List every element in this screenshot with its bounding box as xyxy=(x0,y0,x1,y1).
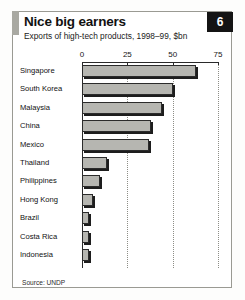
bar-category-label: Malaysia xyxy=(20,103,80,112)
bar xyxy=(82,65,196,77)
bar-row: Hong Kong xyxy=(12,192,232,210)
bar-category-label: South Korea xyxy=(20,84,80,93)
bars-container: SingaporeSouth KoreaMalaysiaChinaMexicoT… xyxy=(12,63,232,268)
x-axis-tick-mark xyxy=(173,62,174,65)
bar xyxy=(82,175,100,187)
bar xyxy=(82,157,107,169)
chart-title: Nice big earners xyxy=(24,14,194,29)
bar-category-label: Hong Kong xyxy=(20,195,80,204)
x-axis-tick-mark xyxy=(127,62,128,65)
bar xyxy=(82,249,89,261)
bar-category-label: Singapore xyxy=(20,66,80,75)
source-note: Source: UNDP xyxy=(22,279,65,286)
bar-category-label: Philippines xyxy=(20,176,80,185)
x-axis-tick-mark xyxy=(218,62,219,65)
x-axis-tick-label: 25 xyxy=(123,50,132,59)
bar-row: Philippines xyxy=(12,173,232,191)
bar xyxy=(82,212,89,224)
chart-panel: Nice big earners Exports of high-tech pr… xyxy=(0,0,245,300)
x-axis-tick-label: 50 xyxy=(168,50,177,59)
bar-row: Thailand xyxy=(12,155,232,173)
bar-category-label: Costa Rica xyxy=(20,232,80,241)
bar-row: China xyxy=(12,118,232,136)
panel-number-badge: 6 xyxy=(207,12,233,32)
bar-row: Indonesia xyxy=(12,247,232,265)
bar-category-label: China xyxy=(20,121,80,130)
bar-category-label: Indonesia xyxy=(20,250,80,259)
bar-category-label: Mexico xyxy=(20,140,80,149)
chart-subtitle: Exports of high-tech products, 1998–99, … xyxy=(24,31,194,42)
bar xyxy=(82,120,151,132)
bar xyxy=(82,102,162,114)
bar-category-label: Brazil xyxy=(20,213,80,222)
x-axis-tick-label: 75 xyxy=(214,50,223,59)
x-axis-tick-mark xyxy=(82,62,83,65)
x-axis-tick-labels: 0255075 xyxy=(12,50,232,62)
accent-bar xyxy=(12,11,19,35)
bar-row: Malaysia xyxy=(12,100,232,118)
plot-area: 0255075 SingaporeSouth KoreaMalaysiaChin… xyxy=(12,50,232,280)
bar-row: Singapore xyxy=(12,63,232,81)
bar-row: Costa Rica xyxy=(12,229,232,247)
bar xyxy=(82,83,173,95)
x-axis-tick-label: 0 xyxy=(80,50,84,59)
bar xyxy=(82,139,149,151)
bar-row: South Korea xyxy=(12,81,232,99)
chart-header: Nice big earners Exports of high-tech pr… xyxy=(24,14,194,42)
bar xyxy=(82,231,89,243)
bar xyxy=(82,194,93,206)
bar-category-label: Thailand xyxy=(20,158,80,167)
bar-row: Mexico xyxy=(12,137,232,155)
bar-row: Brazil xyxy=(12,210,232,228)
